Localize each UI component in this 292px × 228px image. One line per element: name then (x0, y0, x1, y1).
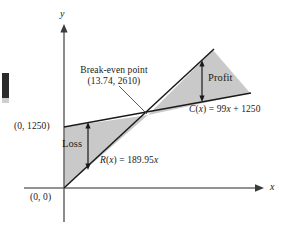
y-axis-arrowhead (60, 24, 67, 33)
cost-function-const: + 1250 (231, 104, 261, 114)
cost-function-expr: = 99 (206, 104, 226, 114)
y-axis-label: y (60, 8, 65, 20)
break-even-leader-line (119, 86, 147, 114)
revenue-function-expr: = 189.95 (117, 155, 154, 165)
revenue-function-var2: x (154, 155, 158, 165)
revenue-function-label: R(x) = 189.95x (100, 155, 158, 166)
y-intercept-label: (0, 1250) (14, 121, 50, 132)
break-even-coordinates: (13.74, 2610) (62, 76, 166, 87)
profit-region-label: Profit (208, 72, 233, 84)
x-axis-arrowhead (255, 184, 264, 192)
cost-function-label: C(x) = 99x + 1250 (189, 104, 261, 115)
origin-label: (0, 0) (30, 192, 51, 203)
break-even-graph-figure: y x Break-even point (13.74, 2610) (0, 1… (0, 0, 292, 228)
loss-region-label: Loss (62, 138, 82, 150)
break-even-title: Break-even point (80, 65, 147, 75)
x-axis-label: x (270, 181, 275, 193)
break-even-point-label: Break-even point (13.74, 2610) (62, 65, 166, 87)
